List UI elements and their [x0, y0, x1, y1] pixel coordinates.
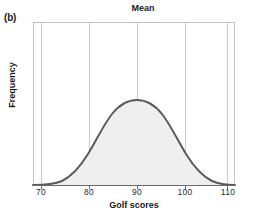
x-tick-label-80: 80	[74, 187, 104, 197]
x-tick-label-110: 110	[213, 187, 243, 197]
x-tick-label-70: 70	[26, 187, 56, 197]
distribution-fill	[33, 100, 235, 185]
x-tick-label-100: 100	[170, 187, 200, 197]
x-axis-label: Golf scores	[33, 200, 235, 210]
x-tick-label-90: 90	[122, 187, 152, 197]
figure-panel-b: (b) Mean Frequency 70 8	[0, 0, 254, 219]
